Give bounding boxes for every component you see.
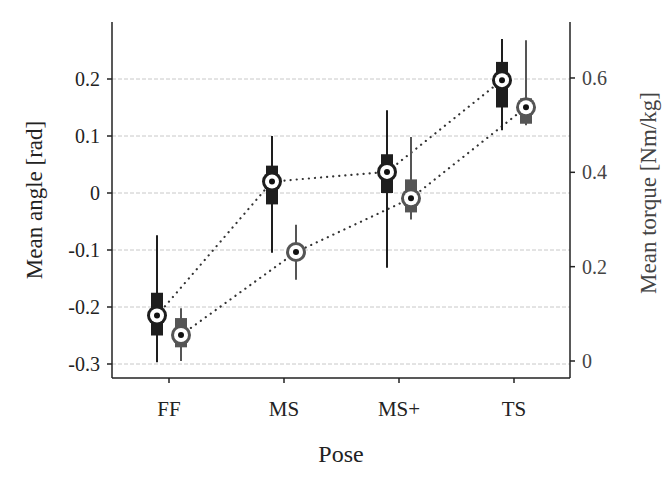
left-tick-label: 0.1 [75,125,100,147]
median-connector-lines [157,80,526,335]
x-tick-label: MS [269,397,299,421]
median-dot [293,249,299,255]
left-tick-label: 0.2 [75,68,100,90]
left-tick-label: 0 [90,182,100,204]
median-dot [178,332,184,338]
box-torque-MS+ [401,137,421,220]
right-tick-label: 0.6 [582,67,607,89]
x-tick-label: FF [157,397,180,421]
left-tick-label: -0.3 [68,353,100,375]
median-dot [499,77,505,83]
box-angle-MS+ [377,110,397,267]
right-y-axis-label: Mean torque [Nm/kg] [636,92,661,294]
median-connector-torque [181,107,526,335]
left-tick-label: -0.1 [68,239,100,261]
median-dot [384,169,390,175]
x-tick-label: TS [502,397,527,421]
median-dot [523,104,529,110]
box-torque-TS [516,40,536,125]
right-tick-label: 0 [582,350,592,372]
box-torque-FF [171,308,191,361]
left-tick-label: -0.2 [68,296,100,318]
right-tick-label: 0.2 [582,256,607,278]
box-series [147,39,536,362]
box-angle-MS [262,136,282,253]
box-angle-FF [147,235,167,362]
median-dot [408,195,414,201]
axis-labels: Pose Mean angle [rad] Mean torque [Nm/kg… [22,92,661,467]
median-dot [269,179,275,185]
left-y-axis-label: Mean angle [rad] [22,121,47,279]
box-plot-chart: 0.20.10-0.1-0.2-0.30.60.40.20FFMSMS+TS P… [0,0,672,477]
median-connector-angle [157,80,502,315]
box-torque-MS [286,225,306,280]
right-tick-label: 0.4 [582,161,607,183]
x-tick-label: MS+ [378,397,420,421]
median-dot [154,313,160,319]
box-angle-TS [492,39,512,130]
x-axis-label: Pose [318,441,363,467]
